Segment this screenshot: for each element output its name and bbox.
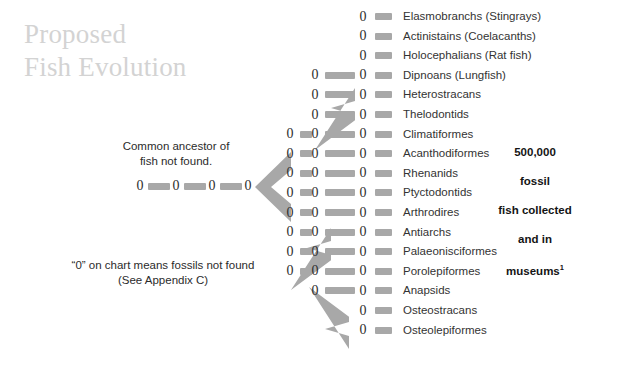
- zero-marker-col4: 0: [357, 127, 369, 141]
- zero-marker-col3: 0: [309, 245, 321, 259]
- taxon-label: Climatiformes: [403, 128, 473, 141]
- connector-dash-col3: [325, 189, 355, 196]
- zero-marker-col4: 0: [357, 147, 369, 161]
- zero-marker-col3: 0: [309, 88, 321, 102]
- zero-marker-col4: 0: [357, 108, 369, 122]
- zero-marker-col4: 0: [357, 29, 369, 43]
- fish-evolution-chart: Proposed Fish Evolution Common ancestor …: [0, 0, 620, 378]
- taxon-label: Heterostracans: [403, 88, 481, 101]
- terminal-dash: [375, 91, 392, 98]
- zero-marker-col3: 0: [309, 127, 321, 141]
- zero-marker-col3: 0: [309, 166, 321, 180]
- zero-marker-col4: 0: [357, 88, 369, 102]
- zero-marker-col4: 0: [357, 49, 369, 63]
- zero-marker-col3: 0: [309, 186, 321, 200]
- taxon-label: Acanthodiformes: [403, 147, 489, 160]
- taxon-label: Osteolepiformes: [403, 324, 487, 337]
- taxon-label: Osteostracans: [403, 304, 477, 317]
- zero-marker-col4: 0: [357, 225, 369, 239]
- taxon-label: Ptyctodontids: [403, 186, 472, 199]
- stem-dash: [184, 183, 206, 190]
- zero-marker-col2: 0: [284, 147, 296, 161]
- zero-marker-stem: 0: [242, 179, 254, 193]
- zero-marker-col2: 0: [284, 225, 296, 239]
- zero-marker-col4: 0: [357, 304, 369, 318]
- zero-marker-col4: 0: [357, 186, 369, 200]
- taxon-label: Rhenanids: [403, 167, 458, 180]
- zero-marker-col3: 0: [309, 108, 321, 122]
- connector-dash-col3: [325, 111, 355, 118]
- fossil-count-line4: and in: [518, 233, 552, 245]
- zero-marker-stem: 0: [206, 179, 218, 193]
- terminal-dash: [375, 287, 392, 294]
- connector-dash-col3: [325, 91, 355, 98]
- zero-marker-stem: 0: [134, 179, 146, 193]
- terminal-dash: [375, 52, 392, 59]
- zero-marker-col3: 0: [309, 284, 321, 298]
- connector-dash-col3: [325, 287, 355, 294]
- zero-marker-col4: 0: [357, 206, 369, 220]
- zero-marker-col2: 0: [284, 206, 296, 220]
- terminal-dash: [375, 150, 392, 157]
- zero-marker-col4: 0: [357, 68, 369, 82]
- taxon-label: Arthrodires: [403, 206, 459, 219]
- terminal-dash: [375, 248, 392, 255]
- zero-marker-col2: 0: [284, 264, 296, 278]
- zero-marker-col4: 0: [357, 264, 369, 278]
- stem-dash: [148, 183, 170, 190]
- connector-dash-col3: [325, 72, 355, 79]
- fossil-count-line5: museums: [506, 265, 560, 277]
- zero-marker-col2: 0: [284, 245, 296, 259]
- taxon-label: Porolepiformes: [403, 265, 480, 278]
- terminal-dash: [375, 72, 392, 79]
- connector-dash-col3: [325, 170, 355, 177]
- zero-marker-col3: 0: [309, 147, 321, 161]
- zero-marker-col4: 0: [357, 284, 369, 298]
- terminal-dash: [375, 170, 392, 177]
- zero-marker-col3: 0: [309, 264, 321, 278]
- zero-marker-col4: 0: [357, 10, 369, 24]
- terminal-dash: [375, 111, 392, 118]
- taxon-label: Actinistains (Coelacanths): [403, 30, 536, 43]
- fossil-count-line1: 500,000: [514, 146, 556, 158]
- zero-marker-stem: 0: [170, 179, 182, 193]
- terminal-dash: [375, 13, 392, 20]
- fossil-count-note: 500,000 fossil fish collected and in mus…: [487, 130, 583, 279]
- terminal-dash: [375, 131, 392, 138]
- terminal-dash: [375, 209, 392, 216]
- zero-marker-col3: 0: [309, 225, 321, 239]
- taxon-label: Dipnoans (Lungfish): [403, 69, 506, 82]
- zero-marker-col4: 0: [357, 323, 369, 337]
- stem-dash: [220, 183, 242, 190]
- zero-marker-col2: 0: [284, 186, 296, 200]
- zero-marker-col3: 0: [309, 206, 321, 220]
- zero-marker-col2: 0: [284, 166, 296, 180]
- common-ancestor-note: Common ancestor of fish not found.: [95, 139, 257, 169]
- zero-marker-col4: 0: [357, 245, 369, 259]
- zero-marker-col2: 0: [284, 127, 296, 141]
- fossil-count-line2: fossil: [520, 175, 550, 187]
- connector-dash-col3: [325, 150, 355, 157]
- connector-dash-col3: [325, 229, 355, 236]
- fossil-count-line3: fish collected: [498, 204, 572, 216]
- taxon-label: Holocephalians (Rat fish): [403, 49, 531, 62]
- connector-dash-col3: [325, 209, 355, 216]
- connector-dash-col3: [325, 131, 355, 138]
- terminal-dash: [375, 268, 392, 275]
- connector-dash-col3: [325, 268, 355, 275]
- zero-marker-col4: 0: [357, 166, 369, 180]
- terminal-dash: [375, 307, 392, 314]
- terminal-dash: [375, 189, 392, 196]
- terminal-dash: [375, 33, 392, 40]
- connector-dash-col3: [325, 248, 355, 255]
- fossil-count-footnote-marker: 1: [560, 263, 564, 272]
- taxon-label: Elasmobranchs (Stingrays): [403, 10, 541, 23]
- taxon-label: Antiarchs: [403, 226, 451, 239]
- zero-marker-col3: 0: [309, 68, 321, 82]
- taxon-label: Anapsids: [403, 284, 450, 297]
- page-title: Proposed Fish Evolution: [24, 18, 187, 84]
- terminal-dash: [375, 327, 392, 334]
- taxon-label: Palaeonisciformes: [403, 245, 497, 258]
- taxon-label: Thelodontids: [403, 108, 469, 121]
- legend-note: “0” on chart means fossils not found (Se…: [18, 258, 308, 288]
